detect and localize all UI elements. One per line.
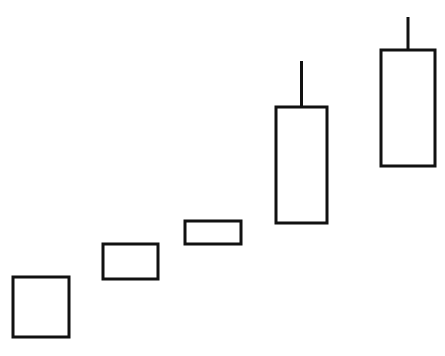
- candle-body: [185, 221, 241, 244]
- candle-body: [381, 50, 435, 166]
- candlestick-chart: [0, 0, 445, 356]
- candle-body: [13, 277, 69, 337]
- candle-2: [103, 244, 158, 279]
- candle-5: [381, 17, 435, 166]
- candle-1: [13, 277, 69, 337]
- candle-body: [103, 244, 158, 279]
- candle-3: [185, 221, 241, 244]
- candle-4: [276, 61, 327, 223]
- candle-body: [276, 107, 327, 223]
